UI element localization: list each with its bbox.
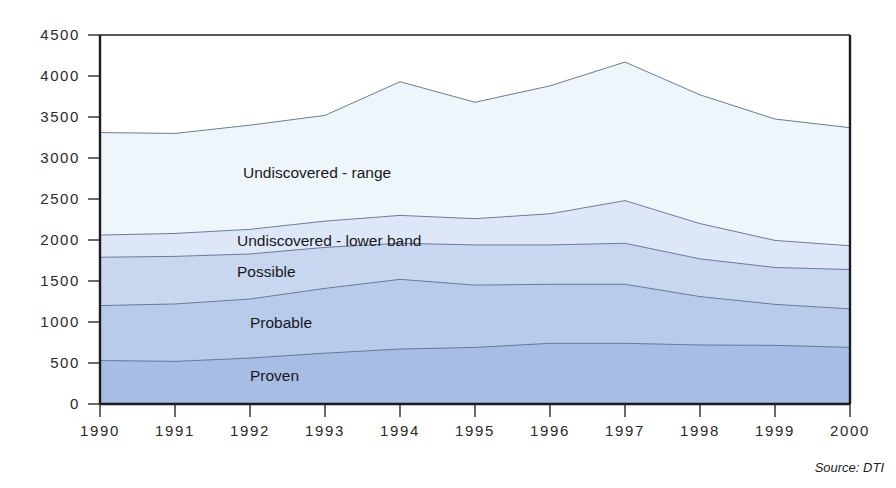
source-note: Source: DTI [815, 460, 885, 475]
x-tick-label-1995: 1995 [455, 422, 495, 439]
x-tick-label-1994: 1994 [380, 422, 420, 439]
y-tick-label-2000: 2000 [40, 231, 80, 248]
x-tick-label-2000: 2000 [830, 422, 870, 439]
x-tick-label-1999: 1999 [755, 422, 795, 439]
y-tick-label-4500: 4500 [40, 26, 80, 43]
y-tick-label-3000: 3000 [40, 149, 80, 166]
x-tick-label-1991: 1991 [155, 422, 195, 439]
y-tick-label-2500: 2500 [40, 190, 80, 207]
x-tick-label-1996: 1996 [530, 422, 570, 439]
chart-figure: 450040003500300025002000150010005000 199… [0, 0, 896, 488]
x-tick-label-1992: 1992 [230, 422, 270, 439]
x-tick-label-1998: 1998 [680, 422, 720, 439]
y-tick-label-1500: 1500 [40, 272, 80, 289]
x-tick-label-1993: 1993 [305, 422, 345, 439]
series-label-undiscovered-range: Undiscovered - range [243, 164, 391, 181]
y-tick-label-1000: 1000 [40, 313, 80, 330]
stacked-area-chart: 450040003500300025002000150010005000 199… [0, 0, 896, 488]
y-tick-label-500: 500 [50, 354, 80, 371]
series-label-possible: Possible [237, 263, 296, 280]
series-label-probable: Probable [250, 314, 312, 331]
y-tick-label-4000: 4000 [40, 67, 80, 84]
series-label-proven: Proven [250, 367, 299, 384]
x-tick-label-1990: 1990 [80, 422, 120, 439]
y-tick-label-3500: 3500 [40, 108, 80, 125]
y-tick-label-0: 0 [70, 395, 80, 412]
x-tick-label-1997: 1997 [605, 422, 645, 439]
series-label-undiscovered-lower-band: Undiscovered - lower band [237, 232, 421, 249]
